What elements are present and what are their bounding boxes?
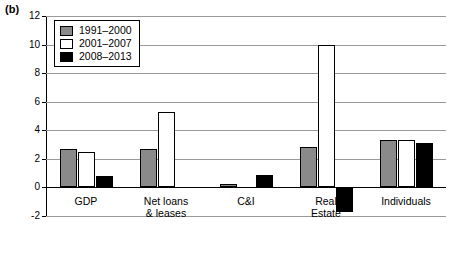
legend-swatch-icon-2008-2013 [60, 52, 73, 62]
y-tick-label: 8 [10, 67, 40, 78]
bar [220, 184, 237, 188]
y-tick-label: 12 [10, 10, 40, 21]
zero-line [46, 187, 446, 188]
bar [140, 149, 157, 188]
y-tick-label: 10 [10, 39, 40, 50]
legend-label-2008-2013: 2008–2013 [79, 51, 132, 62]
bar [416, 143, 433, 187]
y-axis-line [46, 16, 47, 216]
bar [158, 112, 175, 188]
bar [380, 140, 397, 188]
gridline [46, 16, 446, 17]
y-tick-mark [42, 130, 46, 131]
y-tick-mark [42, 187, 46, 188]
legend: 1991–2000 2001–2007 2008–2013 [54, 20, 140, 67]
y-tick-label: 0 [10, 181, 40, 192]
legend-label-1991-2000: 1991–2000 [79, 25, 132, 36]
bar [60, 149, 77, 188]
y-tick-mark [42, 159, 46, 160]
y-tick-label: 2 [10, 153, 40, 164]
category-label: Individuals [356, 195, 456, 207]
bar [300, 147, 317, 188]
bar [318, 45, 335, 187]
legend-item-1991-2000: 1991–2000 [60, 24, 132, 37]
legend-label-2001-2007: 2001–2007 [79, 38, 132, 49]
gridline [46, 73, 446, 74]
gridline [46, 216, 446, 217]
bar [398, 140, 415, 187]
y-tick-mark [42, 102, 46, 103]
bar [96, 176, 113, 187]
y-tick-mark [42, 73, 46, 74]
y-tick-mark [42, 16, 46, 17]
legend-item-2001-2007: 2001–2007 [60, 37, 132, 50]
bar [256, 175, 273, 188]
y-tick-mark [42, 45, 46, 46]
y-tick-label: -2 [10, 210, 40, 221]
gridline [46, 130, 446, 131]
chart-figure: (b) -2024681012 GDPNet loans & leasesC&I… [0, 0, 462, 257]
legend-swatch-icon-2001-2007 [60, 39, 73, 49]
y-tick-mark [42, 216, 46, 217]
y-tick-label: 4 [10, 124, 40, 135]
bar [78, 152, 95, 188]
legend-item-2008-2013: 2008–2013 [60, 50, 132, 63]
y-tick-label: 6 [10, 96, 40, 107]
legend-swatch-icon-1991-2000 [60, 26, 73, 36]
gridline [46, 102, 446, 103]
